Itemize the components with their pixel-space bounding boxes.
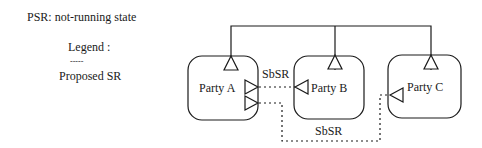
port-a-top-icon [224,56,238,70]
link-label-a-c: SbSR [315,124,342,138]
port-c-left-icon [390,88,403,102]
party-c-label: Party C [407,80,443,94]
port-a-right-1-icon [245,80,258,94]
link-label-a-b: SbSR [262,67,289,81]
port-b-top-icon [328,55,342,69]
port-c-top-icon [424,55,438,69]
port-b-left-icon [295,80,308,94]
party-diagram [0,0,482,148]
party-a-label: Party A [199,81,235,95]
port-a-right-2-icon [245,96,258,110]
party-b-label: Party B [311,81,347,95]
